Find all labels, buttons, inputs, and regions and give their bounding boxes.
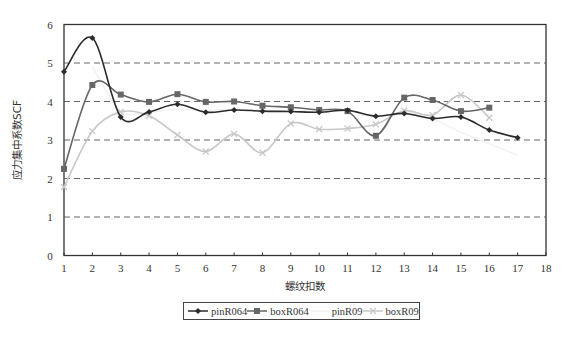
x-tick-label: 1	[61, 262, 67, 274]
x-tick-label: 2	[90, 262, 96, 274]
x-tick-label: 17	[512, 262, 524, 274]
line-marker-icon	[309, 306, 329, 316]
square-marker-icon	[174, 91, 180, 97]
x-tick-label: 11	[342, 262, 353, 274]
series-line	[64, 81, 489, 169]
x-tick-label: 9	[288, 262, 294, 274]
x-tick-label: 18	[541, 262, 553, 274]
x-tick-label: 6	[203, 262, 209, 274]
y-axis-title: 应力集中系数SCF	[11, 100, 23, 180]
series-line	[64, 95, 489, 187]
y-axis-ticks: 0123456	[47, 19, 53, 262]
y-tick-label: 0	[47, 250, 53, 262]
square-marker-icon	[247, 306, 267, 316]
chart-legend: pinR064 boxR064 pinR09 boxR09	[183, 302, 420, 320]
legend-item-pinR064: pinR064	[188, 306, 247, 317]
legend-label: pinR064	[211, 306, 247, 317]
legend-item-boxR064: boxR064	[247, 306, 309, 317]
x-tick-label: 5	[175, 262, 181, 274]
x-marker-icon	[89, 128, 95, 134]
x-marker-icon	[363, 306, 383, 316]
square-marker-icon	[458, 108, 464, 114]
square-marker-icon	[118, 92, 124, 98]
x-tick-label: 10	[314, 262, 326, 274]
y-tick-label: 6	[47, 19, 53, 31]
diamond-marker-icon	[486, 127, 492, 133]
x-axis-title: 螺纹扣数	[285, 280, 326, 292]
square-marker-icon	[486, 105, 492, 111]
diamond-marker-icon	[259, 108, 265, 114]
x-tick-label: 16	[484, 262, 496, 274]
diamond-marker-icon	[458, 114, 464, 120]
square-marker-icon	[259, 103, 265, 109]
square-marker-icon	[373, 133, 379, 139]
square-marker-icon	[203, 99, 209, 105]
x-tick-label: 7	[231, 262, 237, 274]
legend-label: boxR09	[386, 306, 419, 317]
y-tick-label: 2	[47, 173, 53, 185]
square-marker-icon	[401, 95, 407, 101]
series-pinR064	[61, 35, 521, 141]
x-marker-icon	[174, 132, 180, 138]
diamond-marker-icon	[174, 101, 180, 107]
square-marker-icon	[89, 82, 95, 88]
legend-item-pinR09: pinR09	[309, 306, 363, 317]
y-tick-label: 4	[47, 96, 53, 108]
series-boxR064	[61, 81, 492, 172]
square-marker-icon	[61, 166, 67, 172]
x-marker-icon	[486, 115, 492, 121]
y-tick-label: 1	[47, 211, 53, 223]
legend-label: boxR064	[270, 306, 309, 317]
legend-item-boxR09: boxR09	[363, 306, 419, 317]
series-line	[92, 67, 517, 156]
line-chart: 0123456 123456789101112131415161718 应力集中…	[0, 0, 574, 342]
grid-lines	[64, 63, 546, 217]
x-tick-label: 12	[370, 262, 381, 274]
diamond-marker-icon	[373, 113, 379, 119]
diamond-marker-icon	[188, 306, 208, 316]
x-tick-label: 4	[146, 262, 152, 274]
x-tick-label: 15	[455, 262, 467, 274]
square-marker-icon	[430, 97, 436, 103]
y-tick-label: 3	[47, 134, 53, 146]
y-tick-label: 5	[47, 57, 53, 69]
diamond-marker-icon	[231, 107, 237, 113]
square-marker-icon	[231, 99, 237, 105]
square-marker-icon	[146, 99, 152, 105]
series-pinR09	[92, 67, 517, 156]
series-lines	[61, 35, 521, 190]
legend-label: pinR09	[332, 306, 363, 317]
x-tick-label: 3	[118, 262, 124, 274]
x-tick-label: 14	[427, 262, 439, 274]
x-tick-label: 13	[399, 262, 411, 274]
x-tick-label: 8	[260, 262, 266, 274]
